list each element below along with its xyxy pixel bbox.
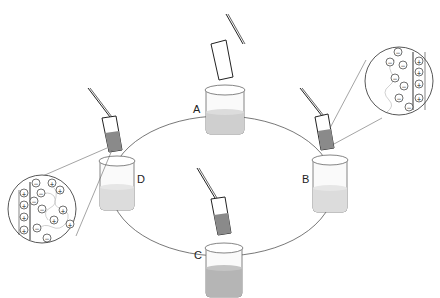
station-c: C (194, 168, 243, 297)
label-b: B (302, 173, 309, 185)
inset-b-magnified-view: + + + + − − − − − − − (365, 47, 433, 115)
label-d: D (137, 173, 145, 185)
forceps-icon (300, 88, 322, 116)
forceps-icon (226, 14, 243, 44)
svg-text:+: + (51, 217, 56, 224)
callout-line (38, 148, 107, 178)
svg-text:+: + (416, 81, 421, 88)
svg-text:+: + (21, 190, 26, 197)
cycle-path (110, 116, 334, 256)
svg-text:+: + (21, 202, 26, 209)
svg-text:−: − (400, 62, 405, 69)
svg-text:−: − (392, 75, 397, 82)
svg-text:+: + (67, 221, 72, 228)
svg-text:−: − (39, 206, 44, 213)
svg-text:+: + (416, 69, 421, 76)
svg-text:−: − (396, 95, 401, 102)
svg-text:−: − (44, 235, 49, 242)
svg-text:−: − (406, 104, 411, 111)
forceps-icon (197, 168, 215, 198)
station-d: D (88, 88, 145, 210)
label-c: C (194, 249, 202, 261)
inset-d-magnified-view: + + + + − + + − − + − + − + − (8, 175, 76, 243)
forceps-icon (88, 88, 110, 117)
svg-text:−: − (31, 198, 36, 205)
svg-text:+: + (21, 214, 26, 221)
svg-text:−: − (38, 190, 43, 197)
label-a: A (193, 103, 201, 115)
station-b: B (300, 88, 348, 212)
svg-text:−: − (34, 225, 39, 232)
test-strip-a (211, 40, 233, 80)
svg-text:−: − (387, 59, 392, 66)
callout-line (330, 60, 366, 128)
svg-text:−: − (401, 83, 406, 90)
svg-text:+: + (416, 95, 421, 102)
svg-text:+: + (57, 187, 62, 194)
electrophoresis-cycle-diagram: A B C D (0, 0, 440, 298)
svg-text:+: + (416, 58, 421, 65)
svg-text:+: + (60, 207, 65, 214)
svg-text:+: + (21, 227, 26, 234)
svg-text:−: − (395, 49, 400, 56)
callout-line (334, 118, 382, 144)
station-a: A (193, 14, 245, 134)
svg-text:+: + (49, 180, 54, 187)
svg-text:−: − (33, 180, 38, 187)
